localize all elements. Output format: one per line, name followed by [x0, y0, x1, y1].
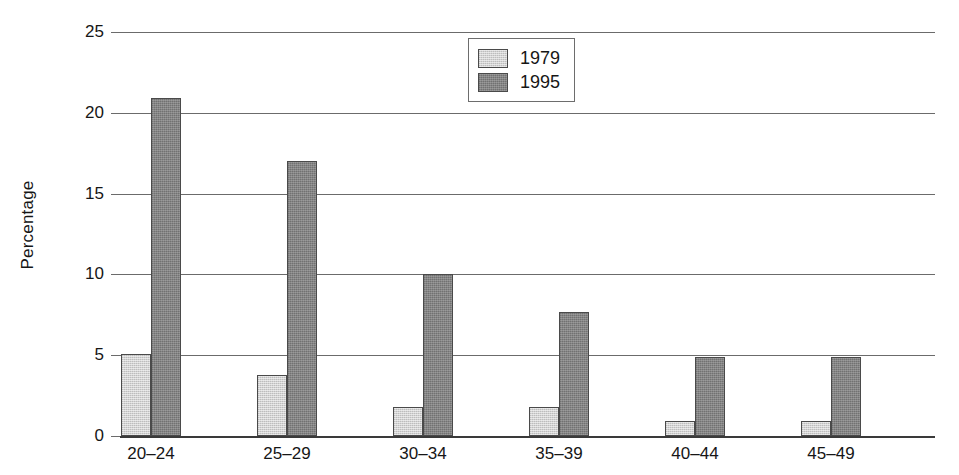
- legend-swatch-1995: [478, 73, 508, 92]
- bar-1995-35-39: [559, 312, 589, 436]
- y-axis-tick-label: 15: [85, 184, 104, 204]
- y-axis-tick: [111, 194, 120, 195]
- bar-1979-20-24: [121, 354, 151, 436]
- y-axis-tick-label: 20: [85, 103, 104, 123]
- y-axis-tick: [111, 274, 120, 275]
- bar-1979-40-44: [665, 421, 695, 436]
- bar-1995-30-34: [423, 274, 453, 436]
- bar-1979-45-49: [801, 421, 831, 436]
- y-axis-tick: [111, 355, 120, 356]
- y-axis-tick-label: 5: [95, 345, 104, 365]
- bar-1979-25-29: [257, 375, 287, 436]
- x-axis-label: 45–49: [761, 444, 901, 464]
- x-axis-label: 30–34: [353, 444, 493, 464]
- legend-label-1979: 1979: [520, 49, 560, 67]
- bar-1995-45-49: [831, 357, 861, 436]
- y-axis-tick-label: 25: [85, 22, 104, 42]
- y-axis-tick-label: 0: [95, 426, 104, 446]
- bar-1979-30-34: [393, 407, 423, 436]
- y-axis-tick: [111, 113, 120, 114]
- bar-1995-20-24: [151, 98, 181, 436]
- y-axis-tick: [111, 436, 120, 437]
- y-axis-tick: [111, 32, 120, 33]
- x-axis-label: 35–39: [489, 444, 629, 464]
- x-axis-label: 40–44: [625, 444, 765, 464]
- bar-group: [121, 32, 181, 436]
- bar-group: [665, 32, 725, 436]
- bar-chart: Percentage 0510152025 20–2425–2930–3435–…: [0, 0, 959, 475]
- bar-1995-40-44: [695, 357, 725, 436]
- legend: 1979 1995: [468, 38, 575, 102]
- bar-1995-25-29: [287, 161, 317, 436]
- y-axis-title: Percentage: [18, 135, 38, 315]
- bar-group: [257, 32, 317, 436]
- y-axis-tick-label: 10: [85, 264, 104, 284]
- legend-swatch-1979: [478, 49, 508, 68]
- x-axis-line: [120, 436, 935, 438]
- legend-label-1995: 1995: [520, 73, 560, 91]
- legend-item-1995: 1995: [478, 70, 560, 94]
- x-axis-label: 25–29: [217, 444, 357, 464]
- legend-item-1979: 1979: [478, 46, 560, 70]
- bar-group: [393, 32, 453, 436]
- x-axis-label: 20–24: [81, 444, 221, 464]
- bar-group: [801, 32, 861, 436]
- bar-1979-35-39: [529, 407, 559, 436]
